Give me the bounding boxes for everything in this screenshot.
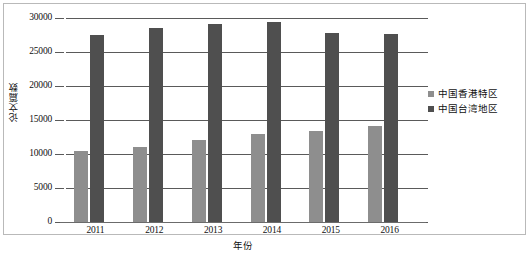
y-axis-tick-mark-right xyxy=(419,52,428,53)
x-axis-line xyxy=(60,222,426,223)
y-axis-tick-mark xyxy=(55,154,64,155)
y-axis-tick-label: 30000 xyxy=(29,13,52,23)
y-axis-tick-mark-right xyxy=(419,18,428,19)
bar xyxy=(251,134,265,222)
bar xyxy=(149,28,163,222)
plot-area: 050001000015000200002500030000 xyxy=(66,18,419,222)
y-axis-tick-mark-right xyxy=(419,86,428,87)
x-axis-tick-label: 2011 xyxy=(86,226,104,236)
y-axis-tick-mark xyxy=(55,120,64,121)
bar xyxy=(325,33,339,222)
y-axis-tick-mark-right xyxy=(419,120,428,121)
bar xyxy=(90,35,104,222)
x-axis-tick-label: 2016 xyxy=(380,226,398,236)
x-axis-tick-label: 2014 xyxy=(263,226,281,236)
y-axis-tick-label: 5000 xyxy=(34,183,52,193)
y-axis-tick-mark xyxy=(55,52,64,53)
bar-group xyxy=(243,18,302,222)
bar xyxy=(368,126,382,222)
bar xyxy=(192,140,206,222)
bar xyxy=(309,131,323,222)
x-axis-tick-label: 2013 xyxy=(204,226,222,236)
y-axis-tick-mark-right xyxy=(419,154,428,155)
y-axis-tick-mark xyxy=(55,188,64,189)
chart-legend: 中国香港特区中国台湾地区 xyxy=(428,86,498,116)
bar-chart-figure: 论文篇数 050001000015000200002500030000 2011… xyxy=(0,0,529,264)
legend-color-swatch xyxy=(428,106,434,112)
bar xyxy=(74,151,88,222)
x-axis-tick-label: 2015 xyxy=(322,226,340,236)
y-axis-tick-label: 10000 xyxy=(29,149,52,159)
bar-group xyxy=(360,18,419,222)
y-axis-tick-mark xyxy=(55,18,64,19)
y-axis-tick-label: 20000 xyxy=(29,81,52,91)
y-axis-title: 论文篇数 xyxy=(8,82,20,122)
legend-item: 中国香港特区 xyxy=(428,86,498,101)
bar xyxy=(267,22,281,222)
bar-group xyxy=(66,18,125,222)
bar-series-container xyxy=(66,18,419,222)
legend-item-label: 中国香港特区 xyxy=(438,89,498,99)
x-axis-title: 年份 xyxy=(66,242,419,252)
y-axis-tick-label: 0 xyxy=(47,217,52,227)
legend-item: 中国台湾地区 xyxy=(428,101,498,116)
bar xyxy=(208,24,222,222)
y-axis-tick-label: 25000 xyxy=(29,47,52,57)
legend-item-label: 中国台湾地区 xyxy=(438,104,498,114)
bar-group xyxy=(125,18,184,222)
y-axis-tick-label: 15000 xyxy=(29,115,52,125)
y-axis-tick-mark xyxy=(55,86,64,87)
legend-color-swatch xyxy=(428,91,434,97)
bar xyxy=(384,34,398,222)
y-axis-tick-mark-right xyxy=(419,188,428,189)
x-axis-tick-label: 2012 xyxy=(145,226,163,236)
bar-group xyxy=(301,18,360,222)
bar-group xyxy=(184,18,243,222)
bar xyxy=(133,147,147,222)
